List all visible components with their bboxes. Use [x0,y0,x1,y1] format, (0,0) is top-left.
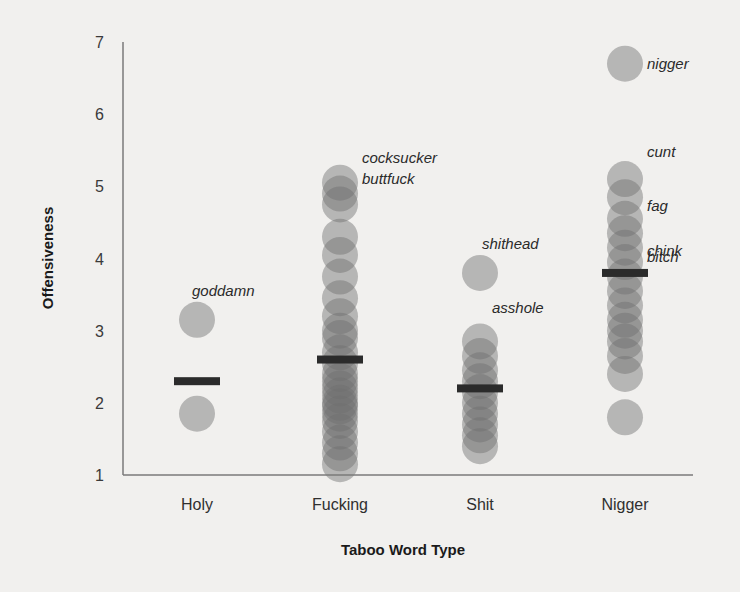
x-axis-categories: HolyFuckingShitNigger [181,496,649,513]
y-tick-label: 2 [95,395,104,412]
y-tick-label: 6 [95,106,104,123]
y-tick-label: 4 [95,251,104,268]
y-tick-label: 1 [95,467,104,484]
data-point [462,255,498,291]
data-points [179,46,643,483]
point-annotation: cocksucker [362,149,438,166]
y-tick-label: 7 [95,34,104,51]
mean-marker [174,377,220,385]
data-point [607,356,643,392]
data-point [462,428,498,464]
mean-marker [317,356,363,364]
point-annotation: asshole [492,299,544,316]
point-annotation: shithead [482,235,539,252]
x-category-label: Holy [181,496,213,513]
y-axis-ticks: 1234567 [95,34,104,484]
data-point [322,186,358,222]
point-annotation: goddamn [192,282,255,299]
mean-marker [457,384,503,392]
x-category-label: Shit [466,496,494,513]
y-tick-label: 3 [95,323,104,340]
data-point [607,46,643,82]
point-annotation: fag [647,197,669,214]
data-point [179,396,215,432]
point-annotation: bitch [647,248,679,265]
x-category-label: Fucking [312,496,368,513]
scatter-chart: goddamncocksuckerbuttfuckshitheadasshole… [0,0,740,592]
data-point [322,446,358,482]
x-axis-title: Taboo Word Type [341,541,465,558]
mean-marker [602,269,648,277]
point-annotation: cunt [647,143,676,160]
point-annotation: buttfuck [362,170,416,187]
data-point [607,399,643,435]
y-tick-label: 5 [95,178,104,195]
point-annotation: nigger [647,55,690,72]
data-point [179,302,215,338]
x-category-label: Nigger [601,496,649,513]
y-axis-title: Offensiveness [39,207,56,310]
